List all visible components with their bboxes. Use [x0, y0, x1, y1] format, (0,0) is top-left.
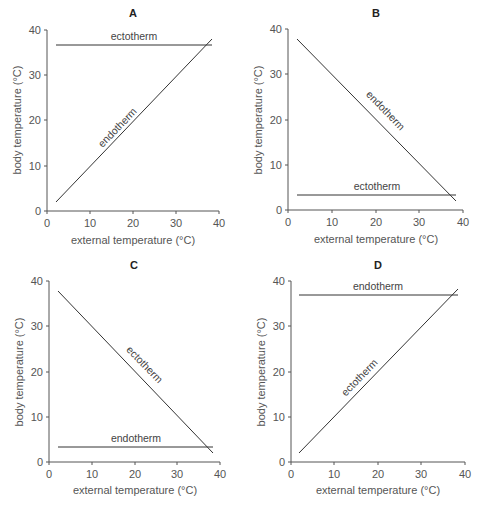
svg-text:10: 10 [270, 159, 282, 171]
svg-text:30: 30 [31, 320, 43, 332]
svg-text:20: 20 [127, 217, 139, 229]
svg-text:0: 0 [279, 456, 285, 468]
svg-text:20: 20 [370, 216, 382, 228]
svg-text:30: 30 [29, 69, 41, 81]
svg-text:0: 0 [276, 204, 282, 216]
y-tick-labels: 0 10 20 30 40 [273, 275, 285, 468]
sloped-line-label: ectotherm [124, 343, 165, 385]
svg-text:30: 30 [270, 68, 282, 80]
svg-text:20: 20 [270, 114, 282, 126]
svg-text:40: 40 [457, 216, 469, 228]
sloped-line-label: endotherm [95, 105, 139, 150]
svg-text:0: 0 [46, 468, 52, 480]
svg-text:40: 40 [213, 217, 225, 229]
x-axis-label: external temperature (°C) [314, 233, 438, 245]
y-axis [285, 29, 288, 210]
flat-line-label: ectotherm [111, 30, 158, 42]
svg-text:40: 40 [273, 275, 285, 287]
svg-text:0: 0 [44, 217, 50, 229]
svg-text:40: 40 [270, 23, 282, 35]
svg-text:10: 10 [86, 468, 98, 480]
panel-title: D [374, 259, 382, 271]
x-axis-label: external temperature (°C) [71, 234, 195, 246]
svg-text:30: 30 [413, 216, 425, 228]
x-axis [291, 462, 465, 465]
chart-panel-d: D 0 10 20 30 40 0 10 20 30 40 external t… [243, 253, 486, 506]
y-tick-labels: 0 10 20 30 40 [31, 275, 43, 468]
svg-text:20: 20 [31, 366, 43, 378]
svg-text:30: 30 [273, 320, 285, 332]
x-axis [47, 211, 219, 214]
sloped-line-label: ectotherm [339, 356, 380, 398]
svg-text:40: 40 [29, 24, 41, 36]
svg-text:10: 10 [326, 216, 338, 228]
y-axis [46, 281, 49, 462]
svg-text:10: 10 [273, 411, 285, 423]
sloped-line [297, 39, 456, 201]
chart-panel-b: B 0 10 20 30 40 0 10 20 30 40 external t… [243, 0, 486, 253]
sloped-line [299, 289, 458, 453]
svg-text:40: 40 [459, 468, 471, 480]
chart-panel-a: A 0 10 20 30 40 0 10 20 30 40 external t… [0, 0, 243, 253]
y-axis [288, 281, 291, 462]
x-axis [288, 210, 463, 213]
svg-text:20: 20 [29, 114, 41, 126]
y-axis-label: body temperature (°C) [11, 66, 23, 175]
svg-text:40: 40 [214, 468, 226, 480]
y-axis [44, 30, 47, 211]
sloped-line [56, 39, 212, 202]
y-tick-labels: 0 10 20 30 40 [29, 24, 41, 217]
svg-text:10: 10 [328, 468, 340, 480]
svg-text:40: 40 [31, 275, 43, 287]
chart-panel-c: C 0 10 20 30 40 0 10 20 30 40 external t… [0, 253, 243, 506]
svg-text:30: 30 [171, 468, 183, 480]
y-tick-labels: 0 10 20 30 40 [270, 23, 282, 216]
panel-title: B [372, 7, 380, 19]
flat-line-label: endotherm [353, 280, 403, 292]
svg-text:10: 10 [84, 217, 96, 229]
svg-text:0: 0 [288, 468, 294, 480]
panel-title: C [130, 259, 138, 271]
y-axis-label: body temperature (°C) [13, 318, 25, 427]
x-axis-label: external temperature (°C) [73, 484, 197, 496]
y-axis-label: body temperature (°C) [252, 66, 264, 175]
svg-text:0: 0 [37, 456, 43, 468]
x-tick-labels: 0 10 20 30 40 [285, 216, 469, 228]
x-tick-labels: 0 10 20 30 40 [46, 468, 226, 480]
svg-text:20: 20 [129, 468, 141, 480]
svg-text:20: 20 [372, 468, 384, 480]
svg-text:30: 30 [170, 217, 182, 229]
svg-text:20: 20 [273, 366, 285, 378]
x-tick-labels: 0 10 20 30 40 [288, 468, 471, 480]
flat-line-label: ectotherm [354, 180, 401, 192]
flat-line-label: endotherm [111, 432, 161, 444]
svg-text:10: 10 [29, 160, 41, 172]
y-axis-label: body temperature (°C) [255, 318, 267, 427]
sloped-line-label: endotherm [364, 88, 408, 133]
svg-text:10: 10 [31, 411, 43, 423]
svg-text:0: 0 [35, 205, 41, 217]
x-tick-labels: 0 10 20 30 40 [44, 217, 225, 229]
svg-text:30: 30 [415, 468, 427, 480]
panel-title: A [129, 7, 137, 19]
x-axis-label: external temperature (°C) [316, 484, 440, 496]
sloped-line [58, 291, 213, 453]
svg-text:0: 0 [285, 216, 291, 228]
x-axis [49, 462, 220, 465]
